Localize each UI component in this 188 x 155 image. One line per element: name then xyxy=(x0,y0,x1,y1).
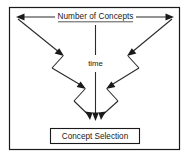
top-label-group: Number of Concepts xyxy=(55,11,136,23)
concept-selection-diagram: Number of Concepts xyxy=(0,0,188,155)
time-label: time xyxy=(88,59,103,68)
number-of-concepts-label: Number of Concepts xyxy=(58,12,134,21)
concept-selection-label: Concept Selection xyxy=(62,132,129,141)
diagram-canvas: Number of Concepts xyxy=(0,0,188,155)
concept-selection-box-group: Concept Selection xyxy=(51,129,140,144)
